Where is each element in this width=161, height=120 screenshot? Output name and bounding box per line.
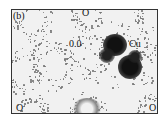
panel-label: (b) (13, 11, 25, 21)
cu-density-lobe-4 (128, 50, 142, 63)
atom-label-o-bottom-left: O (16, 103, 23, 113)
density-map-panel: (b) O 0.0 Cu O O (11, 9, 158, 114)
o-density-bottom (72, 98, 102, 114)
atom-label-o-top: O (82, 9, 89, 18)
cu-density-lobe-2 (99, 48, 115, 63)
atom-label-o-bottom-right: O (149, 103, 156, 113)
atom-label-cu: Cu (129, 39, 141, 49)
contour-value-label: 0.0 (69, 39, 82, 49)
